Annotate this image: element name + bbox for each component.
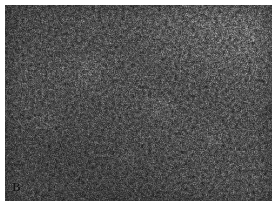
interstitial-highlight-layer	[5, 5, 272, 201]
figure-root: B	[0, 0, 278, 202]
speckle-bright-svg	[5, 5, 272, 201]
micrograph-image: B	[5, 5, 272, 201]
